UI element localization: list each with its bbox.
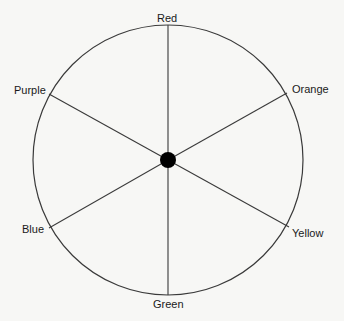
label-green: Green — [153, 298, 184, 310]
label-red: Red — [157, 12, 177, 24]
spoke-yellow — [168, 160, 289, 227]
label-blue: Blue — [22, 223, 44, 235]
label-yellow: Yellow — [292, 227, 323, 239]
color-wheel-diagram: RedOrangeYellowGreenBluePurple — [0, 0, 344, 321]
spoke-purple — [49, 94, 168, 160]
label-purple: Purple — [14, 84, 46, 96]
label-orange: Orange — [292, 83, 329, 95]
center-hub — [160, 152, 176, 168]
wheel-graphic — [0, 0, 344, 321]
spoke-orange — [168, 93, 287, 160]
spoke-blue — [49, 160, 168, 228]
